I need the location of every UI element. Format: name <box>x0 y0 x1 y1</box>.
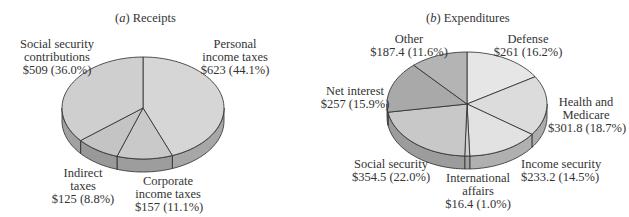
pie-slice-social-security <box>388 104 467 156</box>
label-value: $354.5 (22.0%) <box>349 171 433 184</box>
label-value: $301.8 (18.7%) <box>548 122 624 135</box>
label-indirect-taxes: Indirect taxes $125 (8.8%) <box>48 167 118 206</box>
label-value: $257 (15.9%) <box>318 98 392 111</box>
label-personal-income-taxes: Personal income taxes $623 (44.1%) <box>200 38 270 77</box>
label-social-security: Social security $354.5 (22.0%) <box>349 158 433 184</box>
label-income-security: Income security $233.2 (14.5%) <box>521 158 595 184</box>
label-value: $233.2 (14.5%) <box>521 171 595 184</box>
receipts-title-text: Receipts <box>133 11 176 25</box>
pie-side-wall <box>465 156 470 169</box>
label-other: Other $187.4 (11.6%) <box>369 33 449 59</box>
label-value: $157 (11.1%) <box>135 201 201 214</box>
expenditures-pie <box>387 52 547 169</box>
label-value: $261 (16.2%) <box>490 46 566 59</box>
label-value: $509 (36.0%) <box>10 64 104 77</box>
panel-letter-a: a <box>119 11 125 25</box>
label-net-interest: Net interest $257 (15.9%) <box>318 85 392 111</box>
label-defense: Defense $261 (16.2%) <box>490 33 566 59</box>
label-value: $187.4 (11.6%) <box>369 46 449 59</box>
label-value: $125 (8.8%) <box>48 193 118 206</box>
label-international-affairs: International affairs $16.4 (1.0%) <box>442 172 514 211</box>
panel-letter-b: b <box>430 11 436 25</box>
receipts-title: (a) Receipts <box>115 11 176 26</box>
label-value: $16.4 (1.0%) <box>442 198 514 211</box>
label-corporate-income-taxes: Corporate income taxes $157 (11.1%) <box>135 175 201 214</box>
label-social-security-contributions: Social security contributions $509 (36.0… <box>10 38 104 77</box>
expenditures-title: (b) Expenditures <box>426 11 510 26</box>
label-value: $623 (44.1%) <box>200 64 270 77</box>
expenditures-title-text: Expenditures <box>444 11 510 25</box>
label-health-and-medicare: Health and Medicare $301.8 (18.7%) <box>548 96 624 135</box>
